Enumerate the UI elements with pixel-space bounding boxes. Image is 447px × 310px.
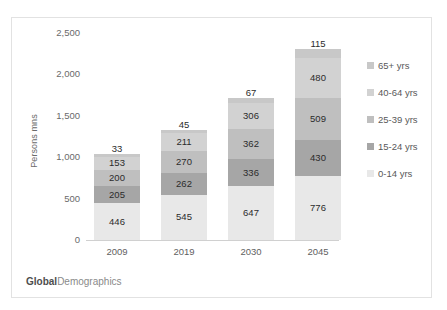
bar-segment[interactable]: 509 <box>295 98 341 140</box>
legend-swatch-icon <box>367 89 374 96</box>
bar-segment-value: 545 <box>176 212 192 222</box>
bar-segment[interactable]: 33 <box>94 154 140 157</box>
bar-segment-value: 776 <box>310 203 326 213</box>
x-axis-tick-label: 2019 <box>161 246 207 257</box>
y-axis-tick-label: 2,000 <box>22 69 80 79</box>
chart-container: Persons mns 05001,0001,5002,0002,500 446… <box>11 17 432 298</box>
legend-item[interactable]: 40-64 yrs <box>367 87 439 99</box>
y-axis-tick-label: 1,000 <box>22 152 80 162</box>
legend-item[interactable]: 15-24 yrs <box>367 141 439 153</box>
bar-segment-value: 205 <box>109 190 125 200</box>
plot-area: 4462052001533354526227021145647336362306… <box>86 33 326 240</box>
legend-item-label: 0-14 yrs <box>378 168 412 180</box>
bar-segment[interactable]: 336 <box>228 159 274 187</box>
bar-segment-value: 336 <box>243 168 259 178</box>
bar-segment-value: 211 <box>176 137 191 147</box>
brand-name-regular: Demographics <box>57 276 121 287</box>
brand-footer: GlobalDemographics <box>26 276 122 287</box>
x-axis-tick-label: 2009 <box>94 246 140 257</box>
bar-segment-value: 67 <box>228 88 274 98</box>
legend-swatch-icon <box>367 116 374 123</box>
bar-segment-value: 362 <box>243 139 259 149</box>
bar-segment[interactable]: 776 <box>295 176 341 240</box>
bar-segment[interactable]: 205 <box>94 186 140 203</box>
bar-segment-value: 45 <box>161 120 207 130</box>
y-axis-tick-label: 500 <box>22 194 80 204</box>
bar-group[interactable]: 54526227021145 <box>161 130 207 240</box>
legend-item-label: 15-24 yrs <box>378 141 418 153</box>
bar-segment[interactable]: 430 <box>295 140 341 176</box>
bar-group[interactable]: 64733636230667 <box>228 98 274 240</box>
bar-segment-value: 270 <box>176 157 192 167</box>
bar-segment-value: 115 <box>295 39 341 49</box>
legend-item-label: 25-39 yrs <box>378 114 418 126</box>
bar-segment[interactable]: 446 <box>94 203 140 240</box>
legend-item[interactable]: 25-39 yrs <box>367 114 439 126</box>
bar-segment-value: 153 <box>109 158 125 168</box>
bar-segment-value: 509 <box>310 114 326 124</box>
legend-swatch-icon <box>367 170 374 177</box>
bar-group[interactable]: 44620520015333 <box>94 154 140 240</box>
bar-segment[interactable]: 153 <box>94 157 140 170</box>
bar-segment-value: 480 <box>310 73 326 83</box>
bar-segment-value: 446 <box>109 217 125 227</box>
bar-segment[interactable]: 45 <box>161 130 207 134</box>
x-axis-line <box>86 240 339 241</box>
y-axis-tick-label: 1,500 <box>22 111 80 121</box>
bar-segment-value: 200 <box>109 173 125 183</box>
bar-segment-value: 33 <box>94 144 140 154</box>
bar-segment[interactable]: 270 <box>161 151 207 173</box>
y-axis-tick-label: 0 <box>22 235 80 245</box>
brand-name-bold: Global <box>26 276 57 287</box>
chart-legend: 65+ yrs40-64 yrs25-39 yrs15-24 yrs0-14 y… <box>367 60 439 195</box>
legend-item-label: 40-64 yrs <box>378 87 418 99</box>
bar-segment[interactable]: 262 <box>161 173 207 195</box>
bar-segment[interactable]: 67 <box>228 98 274 104</box>
bar-segment[interactable]: 647 <box>228 186 274 240</box>
legend-item[interactable]: 65+ yrs <box>367 60 439 72</box>
bar-segment[interactable]: 480 <box>295 58 341 98</box>
x-axis-tick-label: 2045 <box>295 246 341 257</box>
legend-swatch-icon <box>367 143 374 150</box>
bar-segment-value: 647 <box>243 208 259 218</box>
bar-segment[interactable]: 211 <box>161 133 207 150</box>
bar-segment-value: 430 <box>310 153 326 163</box>
legend-item[interactable]: 0-14 yrs <box>367 168 439 180</box>
bar-segment[interactable]: 200 <box>94 170 140 187</box>
bar-segment-value: 306 <box>243 111 259 121</box>
y-axis-tick-label: 2,500 <box>22 28 80 38</box>
legend-swatch-icon <box>367 62 374 69</box>
y-axis-title: Persons mns <box>29 96 39 186</box>
bar-segment-value: 262 <box>176 179 192 189</box>
bar-segment[interactable]: 545 <box>161 195 207 240</box>
bar-segment[interactable]: 362 <box>228 129 274 159</box>
x-axis-tick-label: 2030 <box>228 246 274 257</box>
bar-group[interactable]: 776430509480115 <box>295 49 341 240</box>
bar-segment[interactable]: 306 <box>228 103 274 128</box>
bar-segment[interactable]: 115 <box>295 49 341 59</box>
legend-item-label: 65+ yrs <box>378 60 409 72</box>
